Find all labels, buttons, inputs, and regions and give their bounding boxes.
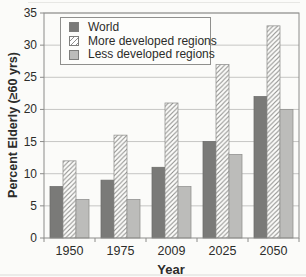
y-tick-label-15: 15 bbox=[24, 135, 38, 149]
legend-swatch-more-developed-icon bbox=[69, 36, 79, 46]
bar-world-1975 bbox=[101, 180, 114, 238]
elderly-population-bar-chart: 0510152025303519501975200920252050 World… bbox=[0, 0, 306, 277]
legend-item-less-developed: Less developed regions bbox=[69, 48, 210, 61]
legend-swatch-less-developed-icon bbox=[69, 50, 79, 60]
legend-item-world: World bbox=[69, 21, 210, 34]
bar-world-2009 bbox=[152, 167, 165, 238]
legend-label-world: World bbox=[88, 21, 119, 34]
y-tick-label-30: 30 bbox=[24, 38, 38, 52]
chart-legend: World More developed regions Less develo… bbox=[60, 17, 211, 65]
bar-less-developed-regions-2009 bbox=[178, 187, 191, 238]
y-tick-label-35: 35 bbox=[24, 6, 38, 20]
legend-label-less-developed: Less developed regions bbox=[88, 48, 215, 61]
y-axis-title: Percent Elderly (≥60 yrs) bbox=[6, 52, 20, 198]
y-tick-label-5: 5 bbox=[30, 199, 37, 213]
bar-more-developed-regions-1950 bbox=[63, 161, 76, 238]
bar-less-developed-regions-2050 bbox=[280, 109, 293, 238]
legend-label-more-developed: More developed regions bbox=[88, 35, 217, 48]
bar-more-developed-regions-2050 bbox=[267, 26, 280, 238]
bar-more-developed-regions-2009 bbox=[165, 103, 178, 238]
x-tick-label-2050: 2050 bbox=[260, 244, 288, 258]
y-tick-label-20: 20 bbox=[24, 102, 38, 116]
y-tick-label-25: 25 bbox=[24, 70, 38, 84]
y-tick-label-10: 10 bbox=[24, 167, 38, 181]
bar-world-1950 bbox=[50, 187, 63, 238]
x-tick-label-2009: 2009 bbox=[158, 244, 186, 258]
bar-less-developed-regions-1975 bbox=[127, 199, 140, 238]
legend-swatch-world-icon bbox=[69, 22, 79, 32]
bar-more-developed-regions-1975 bbox=[114, 135, 127, 238]
x-tick-label-1950: 1950 bbox=[56, 244, 84, 258]
x-tick-label-1975: 1975 bbox=[107, 244, 135, 258]
legend-item-more-developed: More developed regions bbox=[69, 35, 210, 48]
bar-world-2050 bbox=[254, 97, 267, 238]
y-tick-label-0: 0 bbox=[30, 231, 37, 245]
bar-less-developed-regions-1950 bbox=[76, 199, 89, 238]
x-tick-label-2025: 2025 bbox=[209, 244, 237, 258]
x-axis-title: Year bbox=[157, 262, 184, 277]
bar-less-developed-regions-2025 bbox=[229, 154, 242, 238]
bar-more-developed-regions-2025 bbox=[216, 64, 229, 238]
bar-world-2025 bbox=[203, 142, 216, 238]
